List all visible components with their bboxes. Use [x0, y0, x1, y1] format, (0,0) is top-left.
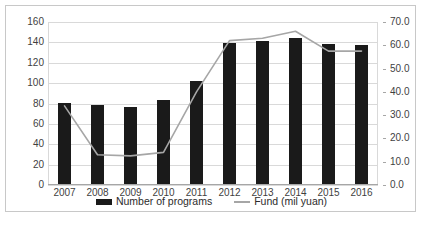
- legend-item-fund: Fund (mil yuan): [234, 196, 327, 207]
- right-axis-tick-mark: [383, 45, 386, 46]
- right-axis-tick-mark: [383, 22, 386, 23]
- line-swatch-icon: [234, 201, 250, 203]
- legend-label-fund: Fund (mil yuan): [254, 196, 327, 207]
- category-axis-line: [48, 184, 378, 185]
- right-axis-tick-label: 20.0: [383, 133, 409, 143]
- bar-swatch-icon: [96, 199, 112, 205]
- right-axis-tick-label: 30.0: [383, 110, 409, 120]
- right-value-axis: 0.010.020.030.040.050.060.070.0: [383, 22, 415, 185]
- right-axis-tick-mark: [383, 185, 386, 186]
- right-axis-tick-label: 0.0: [383, 180, 404, 190]
- legend-label-number-of-programs: Number of programs: [116, 196, 212, 207]
- right-axis-tick-label: 70.0: [383, 17, 409, 27]
- chart-legend: Number of programs Fund (mil yuan): [6, 196, 417, 207]
- left-axis-tick-label: 120: [27, 58, 44, 68]
- right-axis-tick-mark: [383, 69, 386, 70]
- left-axis-tick-label: 40: [33, 139, 44, 149]
- left-axis-tick-label: 160: [27, 17, 44, 27]
- right-axis-tick-mark: [383, 92, 386, 93]
- right-axis-tick-label: 60.0: [383, 40, 409, 50]
- left-axis-tick-label: 140: [27, 37, 44, 47]
- chart-container: 020406080100120140160 0.010.020.030.040.…: [0, 0, 421, 226]
- chart-frame: 020406080100120140160 0.010.020.030.040.…: [5, 5, 416, 212]
- left-value-axis: 020406080100120140160: [14, 22, 44, 185]
- right-axis-tick-label: 40.0: [383, 87, 409, 97]
- right-axis-tick-label: 50.0: [383, 64, 409, 74]
- line-series-fund: [48, 22, 378, 185]
- right-axis-tick-mark: [383, 162, 386, 163]
- fund-line-svg: [48, 22, 378, 185]
- left-axis-tick-label: 60: [33, 119, 44, 129]
- left-axis-tick-label: 0: [38, 180, 44, 190]
- right-axis-tick-mark: [383, 115, 386, 116]
- right-axis-tick-label: 10.0: [383, 157, 409, 167]
- right-axis-tick-mark: [383, 138, 386, 139]
- legend-item-number-of-programs: Number of programs: [96, 196, 212, 207]
- left-axis-tick-label: 20: [33, 160, 44, 170]
- plot-area: [48, 22, 378, 185]
- left-axis-tick-label: 80: [33, 99, 44, 109]
- gridline: [48, 185, 378, 186]
- left-axis-tick-label: 100: [27, 78, 44, 88]
